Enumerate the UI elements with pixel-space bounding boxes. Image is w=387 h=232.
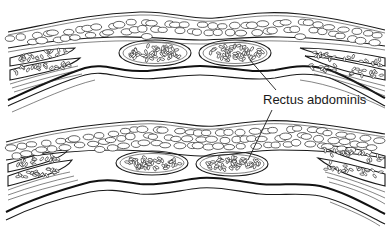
muscle-fiber bbox=[324, 168, 329, 170]
fat-cell bbox=[232, 136, 241, 143]
fat-cell bbox=[372, 33, 382, 38]
muscle-fiber bbox=[361, 73, 364, 78]
fat-cell bbox=[181, 136, 192, 142]
fat-cell bbox=[47, 30, 59, 36]
fat-cell bbox=[197, 22, 207, 27]
fat-cell bbox=[224, 129, 233, 135]
fat-cell bbox=[117, 136, 126, 142]
muscle-fiber bbox=[144, 49, 148, 54]
fat-cell bbox=[313, 22, 323, 28]
muscle-fiber bbox=[54, 67, 59, 70]
muscle-fiber bbox=[336, 166, 339, 171]
muscle-fiber bbox=[232, 155, 234, 160]
fat-cell bbox=[179, 22, 189, 28]
muscle-fiber bbox=[333, 148, 335, 153]
fat-cell bbox=[175, 128, 186, 134]
fat-cell bbox=[252, 29, 263, 36]
fat-cell bbox=[369, 40, 380, 46]
muscle-fiber bbox=[31, 54, 35, 59]
fat-cell bbox=[205, 136, 217, 142]
muscle-fiber bbox=[156, 161, 161, 164]
fat-cell bbox=[148, 134, 157, 139]
fat-cell bbox=[105, 137, 115, 142]
muscle-fiber bbox=[359, 60, 364, 63]
fat-cell bbox=[268, 127, 278, 133]
fat-cell bbox=[218, 24, 227, 29]
muscle-fiber bbox=[35, 56, 40, 60]
fat-cell bbox=[225, 29, 234, 36]
bottom-right-internal-oblique bbox=[318, 158, 385, 186]
top-fat-cells bbox=[5, 19, 382, 46]
fat-cell bbox=[323, 25, 335, 30]
fat-cell bbox=[208, 23, 218, 30]
fat-cell bbox=[280, 133, 292, 140]
muscle-fiber bbox=[229, 45, 234, 48]
muscle-fiber bbox=[346, 55, 351, 59]
abdominal-wall-diagram bbox=[0, 0, 387, 232]
fat-cell bbox=[42, 140, 51, 146]
muscle-fiber bbox=[24, 162, 28, 167]
muscle-fiber bbox=[349, 168, 354, 172]
fat-cell bbox=[56, 138, 66, 144]
fat-cell bbox=[352, 28, 362, 34]
fat-cell bbox=[328, 137, 340, 143]
muscle-fiber bbox=[219, 45, 224, 49]
fat-cell bbox=[26, 142, 36, 147]
fat-cell bbox=[175, 28, 185, 34]
fat-cell bbox=[146, 20, 158, 26]
fat-cell bbox=[20, 151, 32, 157]
fat-cell bbox=[157, 127, 168, 133]
fat-cell bbox=[360, 135, 371, 141]
fat-cell bbox=[355, 37, 366, 44]
muscle-fiber bbox=[46, 168, 51, 171]
muscle-fiber bbox=[135, 160, 138, 165]
fat-cell bbox=[303, 20, 313, 26]
muscle-fiber bbox=[351, 54, 355, 59]
fat-cell bbox=[138, 25, 147, 32]
muscle-fiber bbox=[39, 157, 44, 162]
fat-cell bbox=[5, 36, 14, 42]
fat-cell bbox=[118, 143, 130, 149]
fat-cell bbox=[174, 143, 186, 149]
fat-cell bbox=[323, 130, 332, 135]
fat-cell bbox=[224, 144, 235, 149]
muscle-fiber bbox=[355, 68, 360, 70]
muscle-fiber bbox=[52, 171, 57, 174]
fat-cell bbox=[171, 136, 181, 141]
muscle-fiber bbox=[146, 43, 150, 48]
fat-cell bbox=[36, 37, 48, 44]
muscle-fiber bbox=[32, 158, 37, 160]
muscle-fiber bbox=[317, 54, 319, 59]
bottom-fat-cells bbox=[5, 126, 385, 160]
fat-cell bbox=[137, 126, 148, 133]
fat-cell bbox=[313, 135, 323, 142]
muscle-fiber bbox=[45, 173, 49, 178]
fat-cell bbox=[107, 145, 118, 151]
fat-cell bbox=[291, 139, 301, 146]
muscle-fiber bbox=[211, 161, 216, 164]
muscle-fiber bbox=[220, 56, 223, 61]
bottom-cross-section bbox=[5, 121, 385, 226]
muscle-fiber bbox=[23, 175, 28, 178]
muscle-fiber bbox=[332, 166, 335, 171]
muscle-fiber bbox=[45, 156, 49, 161]
fat-cell bbox=[305, 141, 316, 147]
muscle-fiber bbox=[211, 48, 216, 52]
muscle-fiber bbox=[332, 69, 337, 71]
fat-cell bbox=[293, 126, 302, 132]
fat-cell bbox=[108, 131, 119, 136]
muscle-fiber bbox=[50, 153, 54, 158]
fat-cell bbox=[366, 145, 376, 151]
muscle-fiber bbox=[370, 168, 375, 172]
muscle-fiber bbox=[16, 162, 20, 167]
fat-cell bbox=[5, 145, 16, 151]
fat-cell bbox=[95, 146, 105, 152]
fat-cell bbox=[290, 26, 300, 32]
fat-cell bbox=[295, 34, 306, 40]
fat-cell bbox=[249, 128, 261, 134]
muscle-fiber bbox=[240, 46, 243, 51]
muscle-fiber bbox=[331, 55, 336, 59]
fat-cell bbox=[201, 130, 210, 136]
muscle-fiber bbox=[148, 158, 153, 162]
muscle-fiber bbox=[362, 69, 367, 71]
